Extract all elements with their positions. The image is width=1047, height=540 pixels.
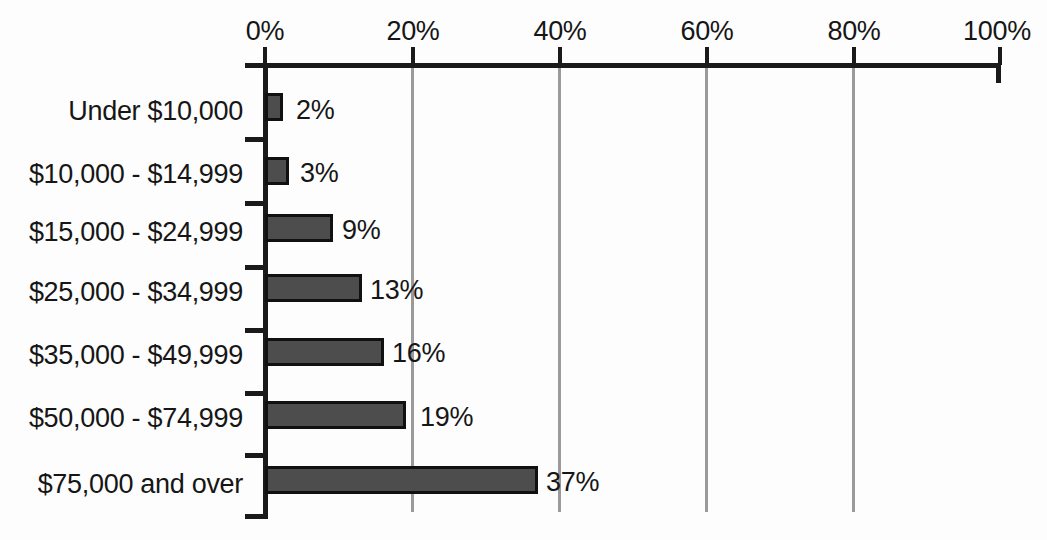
bar-value-6: 37% <box>546 467 599 498</box>
x-axis-line <box>265 63 1001 68</box>
bar-value-1: 3% <box>300 158 338 189</box>
category-label-2: $15,000 - $24,999 <box>29 217 243 248</box>
ytick-mark-5 <box>245 391 268 396</box>
bar-value-3: 13% <box>370 275 423 306</box>
category-label-3: $25,000 - $34,999 <box>29 277 243 308</box>
bar-chart: 0% 20% 40% 60% 80% 100% Under $10,000 $1… <box>0 0 1047 540</box>
bar-35000-49999 <box>265 338 384 366</box>
gridline-40 <box>558 65 561 512</box>
bar-value-2: 9% <box>342 215 380 246</box>
ytick-mark-4 <box>245 328 268 333</box>
ytick-mark-1 <box>245 137 268 142</box>
xtick-label-20: 20% <box>386 16 439 47</box>
gridline-60 <box>705 65 708 512</box>
ytick-mark-3 <box>245 265 268 270</box>
bar-under-10000 <box>265 93 283 121</box>
category-label-5: $50,000 - $74,999 <box>29 403 243 434</box>
bar-15000-24999 <box>265 214 333 242</box>
bar-value-4: 16% <box>392 338 445 369</box>
bar-10000-14999 <box>265 157 289 185</box>
xtick-label-60: 60% <box>680 16 733 47</box>
ytick-mark-2 <box>245 201 268 206</box>
category-label-1: $10,000 - $14,999 <box>29 159 243 190</box>
xtick-label-100: 100% <box>963 16 1031 47</box>
bar-50000-74999 <box>265 401 406 429</box>
category-label-4: $35,000 - $49,999 <box>29 340 243 371</box>
y-axis-endcap <box>245 514 268 519</box>
bar-value-5: 19% <box>420 402 473 433</box>
x-axis-endcap <box>996 63 1001 83</box>
xtick-label-80: 80% <box>827 16 880 47</box>
bar-75000-and-over <box>265 466 538 494</box>
ytick-mark-6 <box>245 453 268 458</box>
xtick-label-0: 0% <box>246 16 284 47</box>
xtick-label-40: 40% <box>533 16 586 47</box>
ytick-mark-0 <box>245 63 268 68</box>
gridline-80 <box>852 65 855 512</box>
bar-value-0: 2% <box>296 95 334 126</box>
category-label-6: $75,000 and over <box>38 469 243 500</box>
category-label-0: Under $10,000 <box>68 96 243 127</box>
bar-25000-34999 <box>265 274 362 302</box>
